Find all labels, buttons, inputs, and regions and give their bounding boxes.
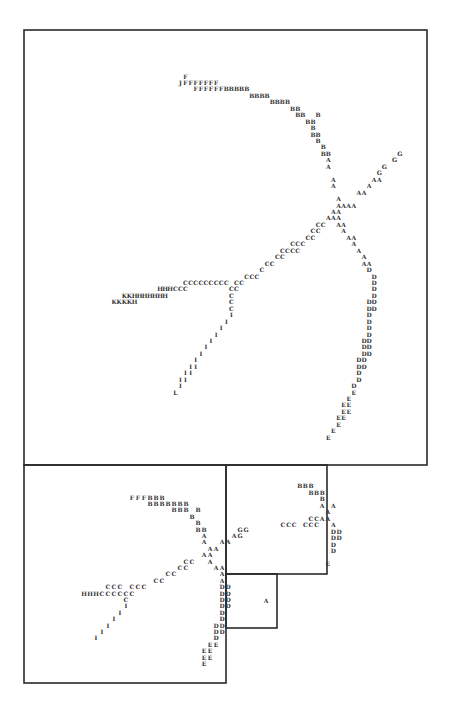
glyph-c: C [280,253,285,260]
glyph-e: E [341,414,346,421]
glyph-f: F [136,494,141,501]
glyph-c: C [316,227,321,234]
glyph-a: A [319,515,325,522]
glyph-e: E [331,427,336,434]
glyph-a: A [366,182,372,189]
panel-zoom-3-frame [226,574,277,628]
glyph-c: C [118,590,123,597]
glyph-a: A [335,221,341,228]
glyph-c: C [309,521,314,528]
glyph-b: B [183,506,188,513]
glyph-h: H [93,590,99,597]
glyph-a: A [319,502,325,509]
glyph-c: C [160,577,165,584]
glyph-i: I [225,318,228,325]
glyph-e: E [336,421,341,428]
glyph-a: A [207,558,213,565]
glyph-a: A [356,247,362,254]
glyph-d: D [225,602,230,609]
glyph-i: I [204,343,207,350]
glyph-b: B [316,111,321,118]
glyph-e: E [208,654,213,661]
glyph-e: E [346,408,351,415]
glyph-c: C [130,590,135,597]
glyph-a: A [345,202,351,209]
glyph-h: H [132,298,138,305]
glyph-a: A [324,515,330,522]
glyph-a: A [340,227,346,234]
glyph-g: G [382,163,387,170]
glyph-i: I [230,311,233,318]
glyph-g: G [237,532,242,539]
glyph-c: C [286,521,291,528]
glyph-d: D [372,305,377,312]
glyph-g: G [397,150,402,157]
glyph-b: B [297,482,302,489]
glyph-i: I [101,628,104,635]
glyph-b: B [195,506,200,513]
glyph-i: I [119,609,122,616]
glyph-d: D [331,547,336,554]
glyph-i: I [113,615,116,622]
glyph-j: J [178,79,182,87]
glyph-a: A [325,163,331,170]
glyph-i: I [220,324,223,331]
glyph-e: E [352,389,357,396]
glyph-d: D [366,350,371,357]
glyph-i: I [184,376,187,383]
glyph-c: C [239,279,244,286]
glyph-c: C [321,221,326,228]
glyph-a: A [371,176,377,183]
glyph-a: A [376,176,382,183]
glyph-a: A [350,240,356,247]
glyph-c: C [183,285,188,292]
glyph-d: D [336,534,341,541]
glyph-a: A [350,202,356,209]
glyph-i: I [194,363,197,370]
glyph-b: B [189,513,194,520]
glyph-i: I [125,602,128,609]
glyph-f: F [142,494,147,501]
glyph-a: A [213,545,219,552]
glyph-b: B [314,489,319,496]
glyph-e: E [202,660,207,667]
glyph-c: C [100,590,105,597]
glyph-i: I [199,350,202,357]
glyph-c: C [154,577,159,584]
glyph-d: D [356,376,361,383]
glyph-a: A [345,234,351,241]
glyph-b: B [153,500,158,507]
glyph-c: C [311,234,316,241]
glyph-f: F [130,494,135,501]
glyph-a: A [219,538,225,545]
glyph-b: B [177,506,182,513]
panel-main-frame [24,30,427,465]
glyph-b: B [147,500,152,507]
glyph-c: C [234,285,239,292]
glyph-a: A [330,182,336,189]
panel-zoom-3-glyphs: A [263,597,269,604]
glyph-c: C [281,521,286,528]
glyph-c: C [295,247,300,254]
glyph-c: C [106,590,111,597]
glyph-b: B [308,489,313,496]
glyph-c: C [112,590,117,597]
glyph-c: C [166,570,171,577]
glyph-b: B [171,506,176,513]
glyph-c: C [300,240,305,247]
glyph-b: B [159,500,164,507]
panel-zoom-1-glyphs: FFFBBBBBBBBBBBBBBBBBBGGAAGAAAAAAACCACCAA… [81,494,248,667]
glyph-i: I [179,382,182,389]
glyph-a: A [340,202,346,209]
glyph-c: C [303,521,308,528]
glyph-a: A [361,189,367,196]
glyph-a: A [330,214,336,221]
glyph-e: E [326,434,331,441]
glyph-d: D [219,628,224,635]
glyph-c: C [136,583,141,590]
glyph-d: D [361,363,366,370]
glyph-a: A [225,538,231,545]
glyph-i: I [189,369,192,376]
glyph-a: A [356,189,362,196]
glyph-a: A [325,214,331,221]
